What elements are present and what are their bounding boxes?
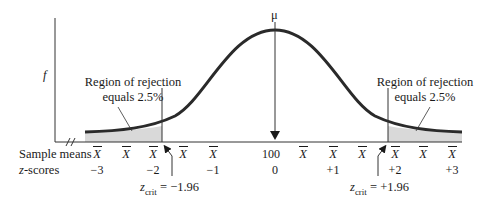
right-region-label: Region of rejection equals 2.5% bbox=[365, 75, 481, 105]
z-score-tick: −1 bbox=[201, 163, 225, 178]
z-scores-row-label: z-scores bbox=[19, 163, 59, 177]
z-score-tick: −2 bbox=[141, 163, 165, 178]
sample-mean-symbol: X bbox=[388, 147, 402, 162]
sample-mean-symbol: X bbox=[326, 147, 340, 162]
sample-mean-symbol: X bbox=[119, 147, 133, 162]
left-region-label: Region of rejection equals 2.5% bbox=[73, 75, 193, 105]
mean-arrow-icon bbox=[270, 131, 280, 140]
right-region-pointer bbox=[416, 107, 430, 131]
left-region-pointer bbox=[118, 107, 132, 131]
z-score-tick: +1 bbox=[321, 163, 345, 178]
right-critical-value: zcrit = +1.96 bbox=[350, 180, 409, 197]
sample-mean-symbol: X bbox=[146, 147, 160, 162]
sample-mean-symbol: X bbox=[176, 147, 190, 162]
sample-mean-symbol: X bbox=[206, 147, 220, 162]
mean-value: 100 bbox=[262, 147, 280, 161]
left-critical-value: zcrit = −1.96 bbox=[140, 180, 199, 197]
sample-mean-symbol: X bbox=[416, 147, 430, 162]
z-score-tick: +3 bbox=[440, 163, 464, 178]
z-score-tick: −3 bbox=[85, 163, 109, 178]
mean-label: μ bbox=[271, 8, 278, 22]
z-score-tick: +2 bbox=[383, 163, 407, 178]
sample-mean-symbol: X bbox=[355, 147, 369, 162]
y-axis-label: f bbox=[43, 68, 46, 82]
z-score-tick: 0 bbox=[263, 163, 287, 178]
sample-mean-symbol: X bbox=[90, 147, 104, 162]
sample-mean-symbol: X bbox=[296, 147, 310, 162]
sample-mean-symbol: X bbox=[445, 147, 459, 162]
sample-means-row-label: Sample means bbox=[19, 147, 92, 161]
